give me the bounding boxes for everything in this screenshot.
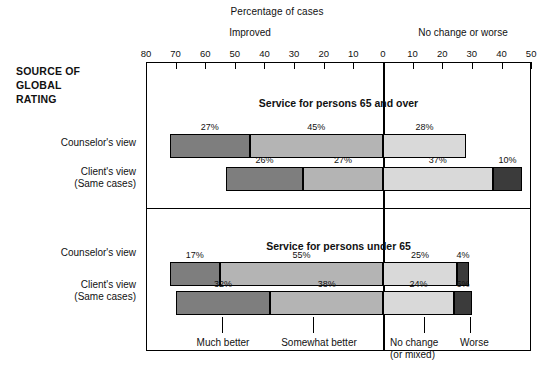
bar-value-label: 28%	[383, 122, 466, 132]
legend-item: Worse	[460, 337, 520, 349]
x-axis-tick-label: 30	[460, 48, 484, 59]
row-label-line-1: Client's view	[8, 279, 136, 291]
x-axis-tick-label: 70	[164, 48, 188, 59]
legend-item: Somewhat better	[260, 337, 378, 349]
x-axis-tick-label: 80	[134, 48, 158, 59]
legend-item-label-line-1: Worse	[460, 337, 520, 349]
legend-item-label-line-2: (or mixed)	[390, 349, 460, 361]
stacked-bar-chart: Percentage of cases Improved No change o…	[0, 0, 554, 386]
x-axis-tick-label: 40	[252, 48, 276, 59]
legend-item: Much better	[177, 337, 269, 349]
source-heading-line-2: GLOBAL	[16, 78, 80, 92]
bar-value-label: 32%	[176, 279, 271, 289]
bar-value-label: 45%	[250, 122, 383, 132]
panel-divider	[146, 208, 531, 209]
stacked-bar-row: 26%27%37%10%	[0, 167, 554, 191]
x-axis-tick-label: 30	[282, 48, 306, 59]
bar-segment	[454, 291, 472, 315]
bar-value-label: 4%	[450, 250, 476, 260]
bar-value-label: 24%	[383, 279, 454, 289]
bar-segment	[303, 167, 383, 191]
bar-segment	[493, 167, 523, 191]
legend-leader-line	[470, 317, 471, 333]
x-axis-tick-label: 20	[430, 48, 454, 59]
bar-segment	[383, 291, 454, 315]
x-axis-tick-mark	[531, 62, 532, 69]
legend-leader-line	[313, 317, 314, 333]
bar-value-label: 38%	[270, 279, 383, 289]
bar-value-label: 55%	[220, 250, 383, 260]
x-axis-tick-label: 0	[371, 48, 395, 59]
bar-segment	[176, 291, 271, 315]
bar-value-label: 27%	[303, 155, 383, 165]
bar-value-label: 17%	[170, 250, 220, 260]
bar-segment	[270, 291, 383, 315]
row-label-line-1: Counselor's view	[8, 247, 136, 259]
bar-value-label: 26%	[226, 155, 303, 165]
x-axis-tick-label: 50	[519, 48, 543, 59]
x-axis-tick-label: 50	[223, 48, 247, 59]
source-heading-line-1: SOURCE OF	[16, 64, 80, 78]
legend-item-label-line-1: Somewhat better	[260, 337, 378, 349]
bar-segment	[226, 167, 303, 191]
legend-item-label-line-1: Much better	[177, 337, 269, 349]
x-axis-tick-label: 20	[312, 48, 336, 59]
legend-leader-line	[222, 317, 223, 333]
legend-item-label-line-1: No change	[390, 337, 460, 349]
source-heading-line-3: RATING	[16, 92, 80, 106]
x-axis-tick-label: 60	[193, 48, 217, 59]
legend-item: No change(or mixed)	[390, 337, 460, 361]
bar-value-label: 6%	[450, 279, 476, 289]
chart-supertitle: Percentage of cases	[0, 6, 554, 17]
group-label-no-change-or-worse: No change or worse	[388, 27, 538, 38]
x-axis-tick-label: 10	[341, 48, 365, 59]
bar-value-label: 10%	[493, 155, 523, 165]
x-axis-tick-label: 40	[490, 48, 514, 59]
source-of-global-rating-heading: SOURCE OF GLOBAL RATING	[16, 64, 80, 106]
group-label-improved: Improved	[180, 27, 320, 38]
legend-leader-line	[424, 317, 425, 333]
row-label: Counselor's view	[8, 247, 136, 259]
bar-value-label: 37%	[383, 155, 493, 165]
panel-title: Service for persons 65 and over	[146, 97, 531, 109]
bar-value-label: 25%	[383, 250, 457, 260]
bar-segment	[383, 167, 493, 191]
x-axis-tick-label: 10	[401, 48, 425, 59]
bar-value-label: 27%	[170, 122, 250, 132]
stacked-bar-row: 32%38%24%6%	[0, 291, 554, 315]
